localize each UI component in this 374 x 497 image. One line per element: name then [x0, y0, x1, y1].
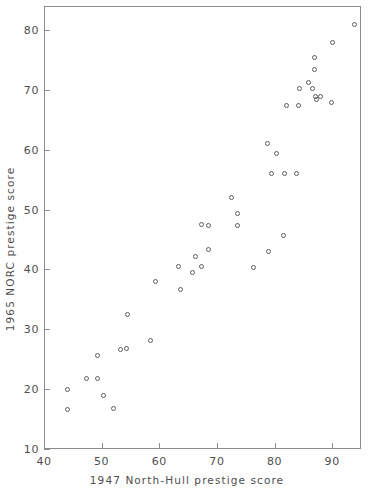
- x-tick-label: 70: [209, 455, 224, 468]
- y-axis-title-text: 1965 NORC prestige score: [4, 166, 16, 330]
- y-tick-label: 60: [24, 143, 44, 156]
- x-tick-label: 50: [94, 455, 109, 468]
- plot-frame: [44, 6, 361, 449]
- y-tick-label: 10: [24, 443, 44, 456]
- y-tick: [44, 90, 50, 91]
- x-tick-label: 60: [152, 455, 167, 468]
- y-tick: [44, 210, 50, 211]
- x-axis-title: 1947 North-Hull prestige score: [0, 474, 374, 486]
- y-tick: [44, 150, 50, 151]
- y-tick: [44, 329, 50, 330]
- y-tick-label: 50: [24, 203, 44, 216]
- x-tick: [159, 443, 160, 449]
- y-tick-label: 80: [24, 23, 44, 36]
- y-tick-label: 20: [24, 383, 44, 396]
- x-tick: [275, 443, 276, 449]
- y-tick: [44, 269, 50, 270]
- x-tick-label: 90: [325, 455, 340, 468]
- scatter-plot-figure: 405060708090 1020304050607080 1947 North…: [0, 0, 374, 497]
- y-tick-label: 40: [24, 263, 44, 276]
- y-axis-title: 1965 NORC prestige score: [2, 0, 18, 497]
- y-tick: [44, 30, 50, 31]
- y-tick-label: 70: [24, 83, 44, 96]
- x-tick: [102, 443, 103, 449]
- x-tick-label: 80: [267, 455, 282, 468]
- y-tick-label: 30: [24, 323, 44, 336]
- x-tick: [332, 443, 333, 449]
- y-tick: [44, 449, 50, 450]
- x-tick: [217, 443, 218, 449]
- x-tick-label: 40: [36, 455, 51, 468]
- y-tick: [44, 389, 50, 390]
